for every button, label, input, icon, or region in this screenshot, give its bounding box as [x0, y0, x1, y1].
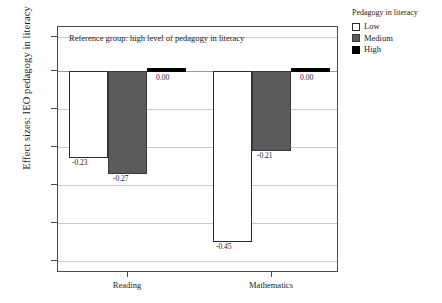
bar-reading-medium[interactable] — [108, 71, 147, 174]
bar-mathematics-high[interactable] — [291, 68, 330, 72]
legend-swatch-low-icon — [352, 23, 360, 31]
bar-label-mathematics-low: -0.45 — [216, 243, 232, 251]
legend: Pedagogy in literacy Low Medium High — [352, 8, 440, 57]
legend-label-medium: Medium — [364, 34, 393, 43]
legend-swatch-high-icon — [352, 46, 360, 54]
chart-container: Effect sizes: IEO pedagogy in literacy 0… — [0, 0, 442, 303]
x-tick-mark-mathematics — [271, 272, 272, 277]
bar-reading-high[interactable] — [147, 68, 186, 72]
x-tick-label-mathematics: Mathematics — [231, 280, 311, 290]
legend-label-low: Low — [364, 22, 380, 31]
bar-mathematics-medium[interactable] — [252, 71, 291, 151]
legend-label-high: High — [364, 45, 381, 54]
legend-item-low[interactable]: Low — [352, 22, 440, 31]
gridline--0.50 — [58, 261, 337, 262]
legend-item-medium[interactable]: Medium — [352, 34, 440, 43]
gridline--0.40 — [58, 223, 337, 224]
bar-label-reading-high: 0.00 — [156, 74, 169, 82]
bar-label-mathematics-high: 0.00 — [300, 74, 313, 82]
bar-label-mathematics-medium: -0.21 — [257, 152, 273, 160]
reference-group-annotation: Reference group: high level of pedagogy … — [69, 33, 244, 43]
legend-item-high[interactable]: High — [352, 45, 440, 54]
x-tick-mark-reading — [127, 272, 128, 277]
y-axis-title: Effect sizes: IEO pedagogy in literacy — [21, 0, 37, 203]
bar-label-reading-low: -0.23 — [72, 159, 88, 167]
bar-mathematics-low[interactable] — [213, 71, 252, 242]
x-tick-label-reading: Reading — [87, 280, 167, 290]
bar-label-reading-medium: -0.27 — [113, 175, 129, 183]
bar-reading-low[interactable] — [69, 71, 108, 158]
legend-title: Pedagogy in literacy — [352, 8, 440, 17]
gridline--0.30 — [58, 185, 337, 186]
legend-swatch-medium-icon — [352, 34, 360, 42]
plot-area: -0.23 -0.27 0.00 -0.45 -0.21 0.00 — [57, 26, 338, 272]
